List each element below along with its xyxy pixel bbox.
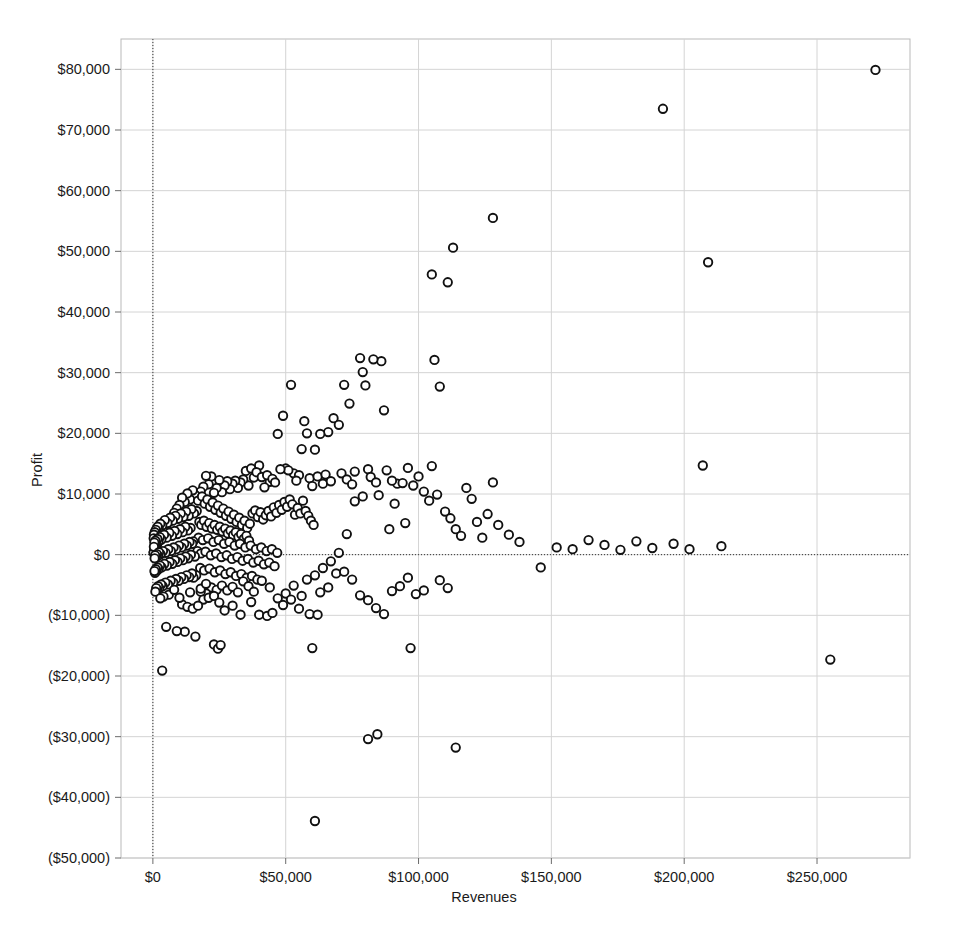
data-point [266,583,274,591]
data-point [210,489,218,497]
data-point [377,357,385,365]
data-point [717,542,725,550]
data-point [401,519,409,527]
data-point [369,355,377,363]
data-point [380,610,388,618]
scatter-chart: $80,000$70,000$60,000$50,000$40,000$30,0… [0,0,958,945]
data-point [552,543,560,551]
chart-canvas: $80,000$70,000$60,000$50,000$40,000$30,0… [0,0,958,945]
data-point [173,627,181,635]
x-tick-label-5: $250,000 [787,869,847,885]
data-point [685,545,693,553]
data-point [279,412,287,420]
data-point [300,417,308,425]
x-tick-label-4: $200,000 [654,869,714,885]
data-point [414,472,422,480]
data-point [202,472,210,480]
data-point [420,586,428,594]
data-point [406,644,414,652]
data-point [319,564,327,572]
data-point [372,604,380,612]
data-point [356,591,364,599]
data-point [324,583,332,591]
data-point [270,562,278,570]
data-point [340,381,348,389]
data-point [430,356,438,364]
x-tick-label-1: $50,000 [259,869,311,885]
data-point [380,406,388,414]
data-point [236,611,244,619]
data-point [324,428,332,436]
y-tick-label-8: $0 [94,547,110,563]
plot-border [121,39,910,858]
data-point [446,514,454,522]
data-point [311,571,319,579]
y-tick-label-1: $70,000 [58,122,110,138]
data-point [356,354,364,362]
data-point [260,483,268,491]
data-point [287,595,295,603]
data-point [359,492,367,500]
data-point [316,588,324,596]
data-point [433,490,441,498]
data-point [297,592,305,600]
data-point [216,641,224,649]
data-point [170,586,178,594]
data-point [398,479,406,487]
data-point [584,536,592,544]
data-point [462,484,470,492]
data-point [648,544,656,552]
data-point [234,588,242,596]
x-tick-label-0: $0 [145,869,161,885]
data-point [327,477,335,485]
y-tick-label-11: ($30,000) [48,729,110,745]
data-point [494,521,502,529]
data-point [250,587,258,595]
y-tick-label-0: $80,000 [58,61,110,77]
data-point [287,381,295,389]
data-point [452,743,460,751]
data-point [162,623,170,631]
data-point [351,497,359,505]
data-point [568,545,576,553]
y-tick-label-12: ($40,000) [48,789,110,805]
data-point [361,381,369,389]
data-point [425,496,433,504]
data-point [202,580,210,588]
data-point [308,482,316,490]
data-point [345,399,353,407]
y-tick-label-2: $60,000 [58,183,110,199]
data-point [409,481,417,489]
data-point [489,214,497,222]
data-point [826,655,834,663]
data-point [372,478,380,486]
data-point [158,666,166,674]
data-point [313,611,321,619]
data-point [457,532,465,540]
data-point [292,476,300,484]
data-point [600,541,608,549]
data-point [186,588,194,596]
data-point [699,461,707,469]
data-point [316,430,324,438]
y-axis-title: Profit [29,453,45,487]
data-point [284,466,292,474]
data-point [436,576,444,584]
data-point [335,421,343,429]
data-point [428,270,436,278]
data-point [268,609,276,617]
data-point [364,735,372,743]
data-point [659,105,667,113]
data-point [632,537,640,545]
data-point [669,540,677,548]
data-point [420,487,428,495]
data-point [343,530,351,538]
data-point [449,243,457,251]
data-point [255,611,263,619]
data-point [390,500,398,508]
data-point [335,549,343,557]
data-point [359,368,367,376]
data-point [175,594,183,602]
data-point [489,478,497,486]
data-point [299,496,307,504]
